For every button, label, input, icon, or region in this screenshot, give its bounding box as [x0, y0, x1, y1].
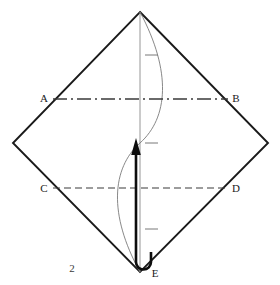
label-D: D	[232, 182, 240, 194]
origami-figure: A B C D E 2	[0, 0, 280, 285]
label-B: B	[232, 92, 239, 104]
figure-number-label: 2	[69, 262, 75, 274]
label-C: C	[40, 182, 47, 194]
label-A: A	[40, 92, 48, 104]
label-E: E	[152, 267, 159, 279]
